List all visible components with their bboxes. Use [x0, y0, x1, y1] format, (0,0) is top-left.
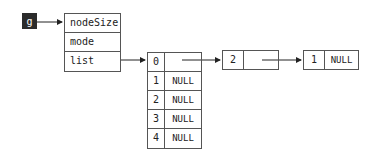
- array-index: 0: [148, 53, 165, 71]
- linked-node-2: 2: [222, 50, 279, 70]
- linked-node-1: 1 NULL: [303, 50, 359, 70]
- node-next: NULL: [325, 51, 358, 69]
- array-row: 4 NULL: [148, 129, 201, 148]
- node-index: 1: [304, 51, 325, 69]
- array-index: 2: [148, 91, 165, 109]
- adjacency-array: 0 1 NULL 2 NULL 3 NULL 4 NULL: [147, 52, 202, 149]
- array-index: 1: [148, 72, 165, 90]
- graph-struct: nodeSize mode list: [64, 13, 121, 72]
- array-value: NULL: [165, 129, 201, 148]
- field-list: list: [65, 52, 120, 71]
- array-row: 3 NULL: [148, 110, 201, 129]
- array-index: 3: [148, 110, 165, 128]
- array-row: 2 NULL: [148, 91, 201, 110]
- array-index: 4: [148, 129, 165, 148]
- array-row: 0: [148, 53, 201, 72]
- field-nodesize: nodeSize: [65, 14, 120, 33]
- field-mode: mode: [65, 33, 120, 52]
- node-next: [244, 51, 278, 69]
- array-value: NULL: [165, 110, 201, 128]
- array-value: [165, 53, 201, 71]
- array-value: NULL: [165, 91, 201, 109]
- array-row: 1 NULL: [148, 72, 201, 91]
- graph-pointer-g: g: [22, 13, 37, 29]
- array-value: NULL: [165, 72, 201, 90]
- node-index: 2: [223, 51, 244, 69]
